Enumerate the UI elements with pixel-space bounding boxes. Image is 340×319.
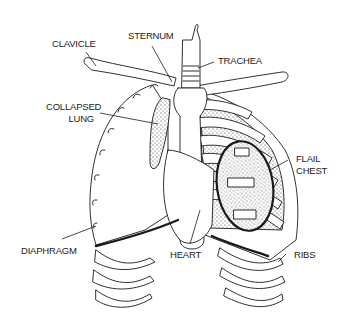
right-clavicle: [196, 72, 288, 96]
label-trachea: TRACHEA: [218, 55, 262, 66]
label-diaphragm: DIAPHRAGM: [21, 245, 77, 256]
label-collapsed-lung-line2: LUNG: [46, 113, 94, 124]
label-sternum: STERNUM: [128, 30, 174, 41]
flail-chest-diagram: CLAVICLE STERNUM TRACHEA COLLAPSED LUNG …: [0, 0, 340, 319]
label-clavicle: CLAVICLE: [52, 38, 96, 49]
label-flail-chest-line1: FLAIL: [296, 153, 320, 164]
trachea-shape: [182, 24, 200, 88]
label-ribs: RIBS: [294, 249, 315, 260]
label-flail-chest-line2: CHEST: [296, 165, 327, 176]
thorax-illustration: [0, 0, 340, 319]
left-clavicle: [84, 58, 176, 86]
label-collapsed-lung-line1: COLLAPSED: [46, 101, 94, 112]
label-heart: HEART: [170, 249, 201, 260]
